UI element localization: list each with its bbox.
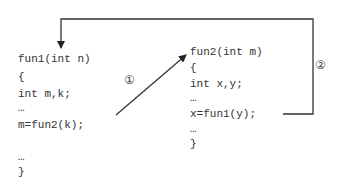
fun2-line-0: fun2(int m) [190,47,263,58]
fun1-line-6: } [18,167,25,178]
fun1-line-4: m=fun2(k); [18,120,84,131]
fun2-line-2: int x,y; [190,79,243,90]
fun1-line-2: int m,k; [18,89,71,100]
call1-label: ① [124,74,135,86]
fun2-line-6: } [190,139,197,150]
call-diagram: fun1(int n) { int m,k; … m=fun2(k); … } … [0,0,344,186]
call2-arrow [61,19,313,114]
fun1-line-5: … [18,152,25,163]
fun1-line-1: { [18,72,25,83]
fun2-line-3: … [190,93,197,104]
fun2-line-5: … [190,124,197,135]
fun1-line-0: fun1(int n) [18,54,91,65]
fun1-line-3: … [18,103,25,114]
fun2-line-4: x=fun1(y); [190,109,256,120]
call2-label: ② [315,59,326,71]
fun2-line-1: { [190,63,197,74]
